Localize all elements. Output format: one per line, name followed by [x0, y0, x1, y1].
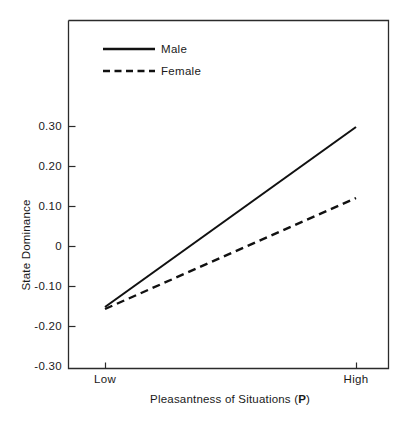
legend-label-female: Female: [161, 65, 201, 77]
y-tick-label-1: 0.20: [38, 160, 62, 172]
y-tick-label-5: -0.20: [34, 320, 62, 332]
chart-figure: 0.30 0.20 0.10 0 -0.10 -0.20 -0.30 Low H…: [0, 0, 417, 425]
legend-label-male: Male: [161, 43, 187, 55]
y-tick-label-4: -0.10: [34, 280, 62, 292]
x-axis-title-text: Pleasantness of Situations (: [150, 393, 298, 405]
line-chart: 0.30 0.20 0.10 0 -0.10 -0.20 -0.30 Low H…: [0, 0, 417, 425]
x-axis-title: Pleasantness of Situations (P): [150, 393, 310, 405]
y-axis-title: State Dominance: [20, 199, 32, 290]
svg-text:Pleasantness of Situations (P): Pleasantness of Situations (P): [150, 393, 310, 405]
y-tick-label-0: 0.30: [38, 120, 62, 132]
x-tick-label-high: High: [344, 373, 369, 385]
y-tick-label-3: 0: [55, 240, 62, 252]
y-tick-label-6: -0.30: [34, 360, 62, 372]
x-tick-label-low: Low: [94, 373, 116, 385]
x-axis-title-paren: ): [306, 393, 310, 405]
y-tick-label-2: 0.10: [38, 200, 62, 212]
chart-background: [0, 0, 417, 425]
y-axis-title-text: State Dominance: [20, 199, 32, 290]
